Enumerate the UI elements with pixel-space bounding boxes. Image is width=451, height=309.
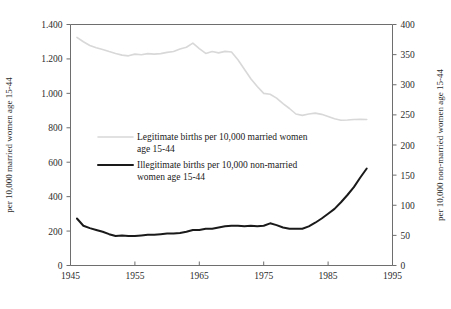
- y2-tick-label: 200: [401, 141, 416, 151]
- y2-tick-label: 250: [401, 110, 416, 120]
- y-tick-label: 1.400: [41, 20, 63, 30]
- births-line-chart: 194519551965197519851995 02004006008001.…: [0, 0, 451, 309]
- y-tick-label: 600: [48, 158, 63, 168]
- y2-tick-label: 150: [401, 171, 416, 181]
- y-tick-label: 200: [48, 227, 63, 237]
- plot-border: [71, 25, 393, 266]
- plot-frame: [71, 25, 393, 266]
- legend-label-illegitimate-line1: Illegitimate births per 10,000 non-marri…: [137, 160, 297, 170]
- y2-tick-label: 100: [401, 201, 416, 211]
- y-axis-left-title: per 10,000 married women age 15-44: [4, 77, 14, 213]
- y-tick-label: 800: [48, 123, 63, 133]
- y-axis-right-title: per 10,000 non-married women age 15-44: [435, 69, 445, 221]
- x-axis-ticks: [71, 262, 393, 266]
- y-axis-left-tick-labels: 02004006008001.0001.2001.400: [41, 20, 63, 271]
- x-tick-label: 1945: [61, 271, 80, 281]
- y2-tick-label: 400: [401, 20, 416, 30]
- y2-tick-label: 300: [401, 80, 416, 90]
- x-axis-tick-labels: 194519551965197519851995: [61, 271, 402, 281]
- y-axis-right-tick-labels: 050100150200250300350400: [401, 20, 416, 271]
- x-tick-label: 1955: [125, 271, 144, 281]
- y-tick-label: 1.200: [41, 54, 63, 64]
- series-line-illegitimate: [77, 169, 367, 236]
- y2-tick-label: 0: [401, 261, 406, 271]
- y-axis-left-ticks: [67, 25, 71, 266]
- y2-tick-label: 350: [401, 50, 416, 60]
- legend-label-legitimate-line2: age 15-44: [137, 144, 175, 154]
- legend-label-legitimate-line1: Legitimate births per 10,000 married wom…: [137, 132, 308, 142]
- chart-legend: Legitimate births per 10,000 married wom…: [98, 132, 308, 182]
- x-tick-label: 1975: [254, 271, 273, 281]
- x-tick-label: 1995: [383, 271, 402, 281]
- y-tick-label: 1.000: [41, 89, 63, 99]
- y-tick-label: 400: [48, 192, 63, 202]
- y-tick-label: 0: [58, 261, 63, 271]
- chart-container: 194519551965197519851995 02004006008001.…: [0, 0, 451, 309]
- x-tick-label: 1965: [190, 271, 209, 281]
- legend-label-illegitimate-line2: women age 15-44: [137, 172, 205, 182]
- y2-tick-label: 50: [401, 231, 411, 241]
- y-axis-right-ticks: [393, 25, 397, 266]
- series-line-legitimate: [77, 37, 367, 120]
- x-tick-label: 1985: [319, 271, 338, 281]
